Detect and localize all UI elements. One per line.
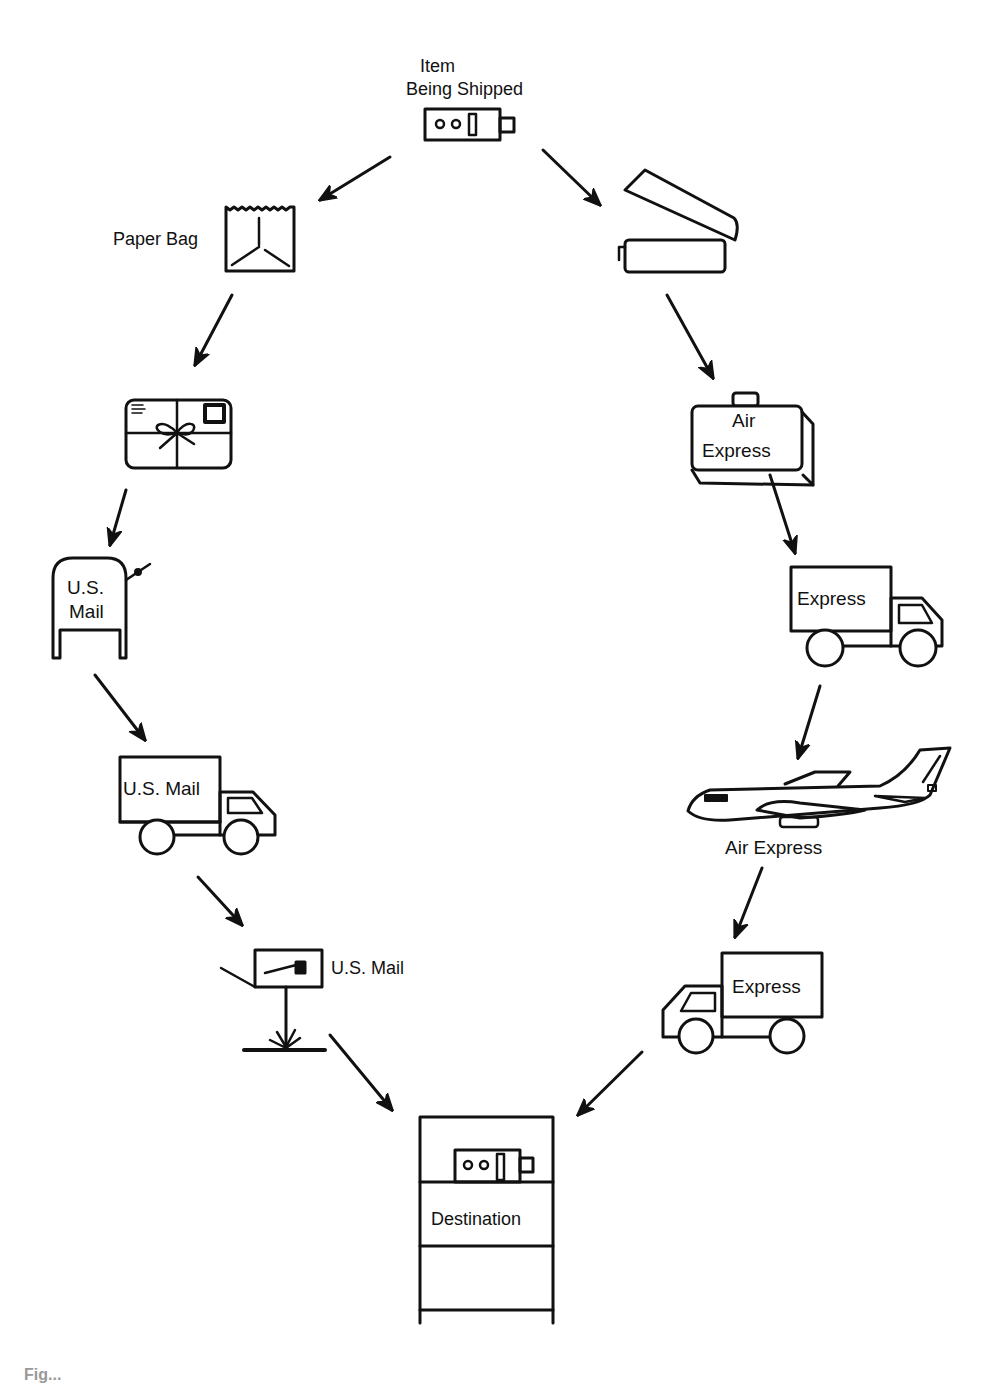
paper-bag-label: Paper Bag (113, 229, 198, 250)
arrow-plane-to-truck (735, 868, 762, 937)
arrow-box-to-case (667, 295, 713, 378)
mailbox-label-line2: Mail (69, 601, 104, 623)
arrow-case-to-truck (770, 475, 795, 553)
express-truck-icon (791, 567, 942, 666)
arrow-mailbox-to-truck (95, 675, 145, 740)
arrow-truck-to-destination (578, 1052, 642, 1115)
air-case-label-line1: Air (732, 410, 755, 432)
us-mail-truck-icon (120, 757, 275, 854)
express-truck-2-icon (663, 953, 822, 1053)
arrow-source-to-box (543, 150, 600, 205)
source-label-line2: Being Shipped (406, 79, 523, 100)
air-case-label-line2: Express (702, 440, 771, 462)
roadside-mailbox-icon (221, 950, 325, 1050)
airplane-label: Air Express (725, 837, 822, 859)
arrow-parcel-to-mailbox (110, 490, 126, 545)
source-device-icon (425, 109, 514, 140)
arrow-source-to-bag (320, 157, 390, 200)
paper-bag-icon (226, 207, 294, 271)
express-truck-2-label: Express (732, 976, 801, 998)
wrapped-parcel-icon (126, 400, 231, 468)
open-box-icon (619, 170, 737, 272)
source-label-line1: Item (420, 56, 455, 77)
airplane-icon (688, 748, 950, 827)
mail-truck-label: U.S. Mail (123, 778, 200, 800)
roadside-mailbox-label: U.S. Mail (331, 958, 404, 979)
express-truck-label: Express (797, 588, 866, 610)
mailbox-label-line1: U.S. (67, 577, 104, 599)
air-express-case-icon (692, 393, 813, 485)
arrow-roadside-to-destination (330, 1035, 392, 1110)
figure-caption: Fig... (24, 1366, 61, 1384)
arrow-truck-to-plane (798, 686, 820, 758)
destination-label: Destination (431, 1209, 521, 1230)
arrow-bag-to-parcel (195, 295, 232, 365)
arrow-truck-to-roadside (198, 877, 242, 925)
